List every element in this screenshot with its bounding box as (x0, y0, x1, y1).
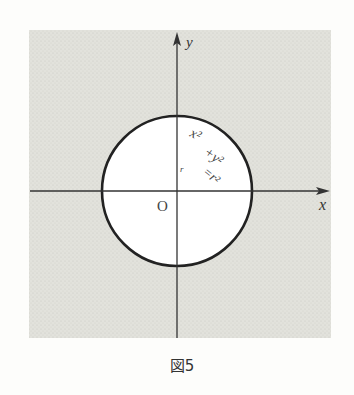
x-axis-label: x (318, 196, 326, 213)
figure-caption: 図5 (0, 354, 354, 375)
circle-diagram: y x O r x² +y² =r² (0, 0, 354, 395)
radius-label: r (180, 164, 184, 174)
origin-label: O (157, 198, 168, 214)
y-axis-label: y (184, 34, 193, 50)
